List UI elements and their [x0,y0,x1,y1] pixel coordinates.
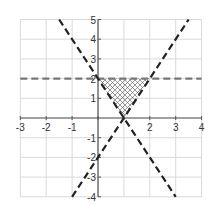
y-tick-label: 3 [90,54,96,65]
y-tick-label: 5 [90,15,96,26]
y-tick-label: 2 [90,74,96,85]
x-tick-label: -3 [16,122,25,133]
x-tick-label: 4 [199,122,205,133]
x-tick-label: 2 [147,122,153,133]
x-tick-label: 3 [173,122,179,133]
tick-labels: -3-2-123454321-1-2-3-4 [16,15,205,203]
y-tick-label: 1 [90,93,96,104]
x-tick-label: -2 [42,122,51,133]
plot-lines [20,20,201,197]
chart: -3-2-123454321-1-2-3-4 [0,0,211,205]
y-tick-label: -1 [87,133,96,144]
grid-lines [20,20,201,197]
y-tick-label: -3 [87,172,96,183]
y-tick-label: -4 [87,192,96,203]
y-tick-label: -2 [87,152,96,163]
axes [20,20,201,197]
x-tick-label: -1 [68,122,77,133]
y-tick-label: 4 [90,34,96,45]
